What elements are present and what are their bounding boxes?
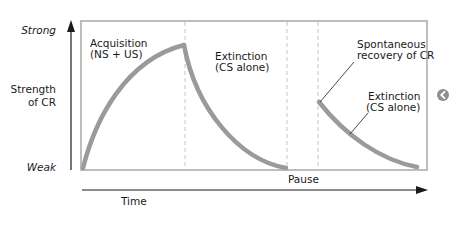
- y-axis-arrowhead: [67, 20, 75, 32]
- y-axis-title-line1: Strength: [4, 83, 56, 95]
- phase-label-acquisition-line2: (NS + US): [90, 48, 143, 60]
- y-axis-title-line2: of CR: [4, 96, 56, 108]
- y-axis-bottom-label: Weak: [14, 161, 56, 173]
- y-axis-top-label: Strong: [14, 24, 56, 36]
- circled-left-arrow-icon[interactable]: [436, 87, 450, 101]
- pause-label: Pause: [288, 173, 319, 185]
- leader-extinction-2: [350, 113, 368, 134]
- x-axis-arrowhead: [416, 186, 428, 194]
- phase-label-extinction-2-line2: (CS alone): [366, 101, 420, 113]
- leader-spontaneous-recovery: [320, 62, 354, 102]
- acquisition-curve: [83, 45, 184, 168]
- phase-label-extinction-1-line2: (CS alone): [215, 61, 269, 73]
- x-axis-title: Time: [121, 195, 147, 207]
- phase-label-spontaneous-recovery-line2: recovery of CR: [357, 49, 434, 61]
